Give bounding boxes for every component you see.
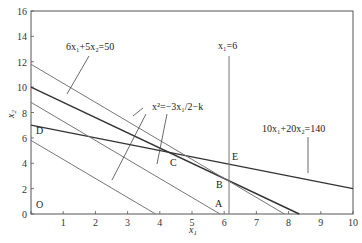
x-tick-label: 2 [93, 217, 98, 228]
y-tick-label: 0 [22, 209, 27, 220]
leader-eq3-c [157, 114, 167, 164]
y-tick-label: 4 [22, 158, 27, 169]
point-label-D: D [36, 125, 43, 136]
y-tick-label: 16 [17, 6, 27, 17]
annotation-eq1: 6x₁+5x₂=50 [66, 41, 114, 52]
series-line [31, 140, 156, 214]
leader-eq1 [67, 56, 89, 94]
constraint-lines [31, 56, 353, 214]
annotation-eq3: x²=−3x₁/2−k [152, 101, 203, 112]
x-tick-label: 4 [157, 217, 162, 228]
x-tick-label: 9 [318, 217, 323, 228]
series-line [31, 64, 284, 214]
y-tick-label: 6 [22, 133, 27, 144]
y-axis-label: x2 [5, 110, 18, 119]
x-tick-label: 10 [348, 217, 358, 228]
point-label-B: B [216, 179, 223, 190]
point-label-A: A [215, 198, 223, 209]
y-tick-label: 2 [22, 184, 27, 195]
series-line [31, 125, 353, 188]
point-label-E: E [232, 151, 238, 162]
y-tick-label: 8 [22, 108, 27, 119]
y-tick-label: 10 [17, 82, 27, 93]
y-tick-label: 14 [17, 31, 27, 42]
leader-eq3-a [133, 108, 143, 116]
point-label-C: C [170, 157, 177, 168]
annotation-eq2: x₁=6 [218, 40, 237, 51]
series-line [31, 102, 220, 214]
x-axis-label: x1 [188, 224, 197, 237]
x-tick-label: 7 [254, 217, 259, 228]
point-label-O: O [36, 199, 43, 210]
x-tick-label: 6 [222, 217, 227, 228]
y-tick-label: 12 [17, 57, 27, 68]
x-tick-label: 8 [286, 217, 291, 228]
x-tick-label: 3 [125, 217, 130, 228]
x-tick-label: 1 [61, 217, 66, 228]
lp-graphical-solution-chart: 12345678910 0246810121416 6x₁+5x₂=50 x₁=… [0, 0, 362, 243]
annotation-eq4: 10x₁+20x₂=140 [262, 123, 325, 134]
